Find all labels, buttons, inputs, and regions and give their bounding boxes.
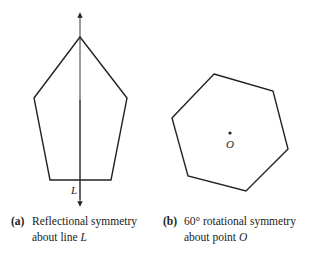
caption-b-label: (b) — [163, 213, 184, 229]
caption-a: (a)Reflectional symmetry about line L — [11, 213, 137, 245]
center-label-o: O — [226, 138, 234, 150]
caption-a-line1: Reflectional symmetry — [32, 215, 137, 227]
pentagon — [34, 37, 127, 180]
axis-label-l: L — [70, 184, 77, 196]
caption-b: (b)60° rotational symmetry about point O — [163, 213, 296, 245]
caption-a-line2: about line — [32, 231, 81, 243]
caption-a-label: (a) — [11, 213, 32, 229]
caption-b-line2: about point — [184, 231, 239, 243]
caption-b-var: O — [239, 231, 247, 243]
caption-b-line1: 60° rotational symmetry — [184, 215, 296, 227]
caption-a-var: L — [81, 231, 87, 243]
center-point-o — [228, 131, 231, 134]
